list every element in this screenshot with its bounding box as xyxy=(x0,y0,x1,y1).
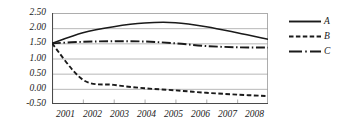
y-tick-label: 0.50 xyxy=(29,68,46,78)
y-tick-label: 0.00 xyxy=(29,83,46,93)
legend: A B C xyxy=(288,14,344,62)
legend-label: C xyxy=(322,46,330,57)
plot-border xyxy=(53,14,268,104)
y-axis-tick-labels: 2.50 2.00 1.50 1.00 0.50 0.00 -0.50 xyxy=(2,0,46,132)
y-tick-label: -0.50 xyxy=(26,98,46,108)
x-axis-tick-labels: 2001 2002 2003 2004 2005 2006 2007 2008 xyxy=(52,107,268,123)
gridlines xyxy=(52,29,268,90)
x-tick-label: 2008 xyxy=(241,107,268,123)
series-line-a xyxy=(52,22,268,43)
legend-entry-b: B xyxy=(288,29,344,44)
x-tick-label: 2002 xyxy=(79,107,106,123)
plot-area xyxy=(52,13,268,104)
legend-swatch-dashed-icon xyxy=(288,31,322,42)
legend-swatch-solid-icon xyxy=(288,16,322,27)
legend-swatch-dashdot-icon xyxy=(288,46,322,57)
series-line-b xyxy=(52,43,268,96)
plot-svg xyxy=(52,13,268,104)
y-tick-label: 2.50 xyxy=(29,7,46,17)
x-tick-label: 2004 xyxy=(133,107,160,123)
y-tick-label: 1.00 xyxy=(29,53,46,63)
legend-entry-a: A xyxy=(288,14,344,29)
x-tick-label: 2005 xyxy=(160,107,187,123)
x-tick-label: 2006 xyxy=(187,107,214,123)
y-tick-label: 2.00 xyxy=(29,22,46,32)
x-tick-label: 2007 xyxy=(214,107,241,123)
x-tick-label: 2001 xyxy=(52,107,79,123)
x-axis-tick-marks xyxy=(53,100,269,104)
series-line-c xyxy=(52,41,268,47)
legend-label: A xyxy=(322,16,330,27)
line-chart-figure: 2.50 2.00 1.50 1.00 0.50 0.00 -0.50 2001… xyxy=(0,0,346,132)
legend-entry-c: C xyxy=(288,44,344,59)
legend-label: B xyxy=(322,31,330,42)
y-tick-label: 1.50 xyxy=(29,37,46,47)
x-tick-label: 2003 xyxy=(106,107,133,123)
axis-frame xyxy=(52,13,268,104)
